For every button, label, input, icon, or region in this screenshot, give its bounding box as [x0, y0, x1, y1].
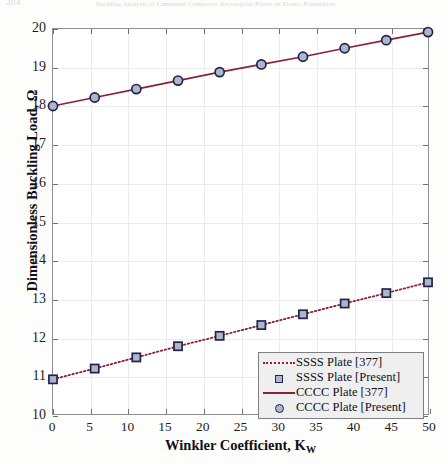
legend-label: CCCC Plate [377] [296, 386, 388, 399]
x-axis-tick-label: 20 [183, 420, 223, 434]
legend-item-cccc-377: CCCC Plate [377] [262, 385, 419, 400]
y-axis-tick-label: 17 [2, 137, 46, 151]
data-point-marker [257, 60, 266, 69]
y-axis-tick-label: 13 [2, 292, 46, 306]
data-point-marker [298, 52, 307, 61]
legend-label: CCCC Plate [Present] [296, 401, 406, 414]
data-point-marker [49, 375, 57, 383]
x-axis-tick-label: 45 [371, 420, 411, 434]
legend-item-cccc-present: CCCC Plate [Present] [262, 400, 419, 415]
x-axis-tick-label: 5 [70, 420, 110, 434]
data-point-marker [90, 93, 99, 102]
x-axis-title: Winkler Coefficient, KW [52, 437, 429, 455]
chart-figure: Dimensionless Buckling Load, Ω Winkler C… [0, 0, 448, 464]
data-point-marker [215, 68, 224, 77]
y-axis-tick-label: 18 [2, 98, 46, 112]
data-point-marker [173, 76, 182, 85]
legend-item-ssss-377: SSSS Plate [377] [262, 355, 419, 370]
x-axis-tick-label: 25 [221, 420, 261, 434]
x-axis-title-text: Winkler Coefficient, K [165, 437, 306, 453]
x-axis-tick-label: 15 [145, 420, 185, 434]
y-axis-tick-label: 19 [2, 60, 46, 74]
data-point-marker [257, 321, 265, 329]
chart-legend: SSSS Plate [377] SSSS Plate [Present] CC… [258, 352, 424, 419]
y-axis-tick-label: 12 [2, 331, 46, 345]
y-axis-tick-label: 16 [2, 176, 46, 190]
legend-item-ssss-present: SSSS Plate [Present] [262, 370, 419, 385]
data-point-marker [299, 310, 307, 318]
y-axis-tick-label: 14 [2, 253, 46, 267]
data-point-marker [174, 342, 182, 350]
x-axis-tick-label: 30 [258, 420, 298, 434]
data-point-marker [91, 364, 99, 372]
legend-label: SSSS Plate [Present] [296, 371, 400, 384]
y-axis-tick [53, 416, 58, 417]
x-axis-tick-label: 40 [334, 420, 374, 434]
y-axis-tick-label: 20 [2, 21, 46, 35]
data-point-marker [132, 84, 141, 93]
data-point-marker [216, 332, 224, 340]
x-axis-tick-label: 10 [107, 420, 147, 434]
x-axis-title-subscript: W [306, 444, 316, 455]
data-point-marker [48, 101, 57, 110]
dotted-line-icon [262, 356, 296, 370]
data-point-marker [341, 299, 349, 307]
cccc-plate-377-line [53, 32, 428, 106]
x-axis-tick [430, 409, 431, 414]
x-axis-tick-label: 0 [32, 420, 72, 434]
data-point-marker [424, 278, 432, 286]
data-point-marker [340, 44, 349, 53]
x-axis-tick-label: 35 [296, 420, 336, 434]
data-point-marker [382, 36, 391, 45]
data-point-marker [382, 289, 390, 297]
x-axis-tick-label: 50 [409, 420, 448, 434]
circle-marker-icon [262, 401, 296, 415]
y-axis-tick-label: 11 [2, 369, 46, 383]
data-point-marker [423, 28, 432, 37]
solid-line-icon [262, 386, 296, 400]
legend-label: SSSS Plate [377] [296, 356, 382, 369]
square-marker-icon [262, 371, 296, 385]
data-line [53, 32, 428, 106]
data-point-marker [132, 353, 140, 361]
y-axis-tick-label: 15 [2, 215, 46, 229]
